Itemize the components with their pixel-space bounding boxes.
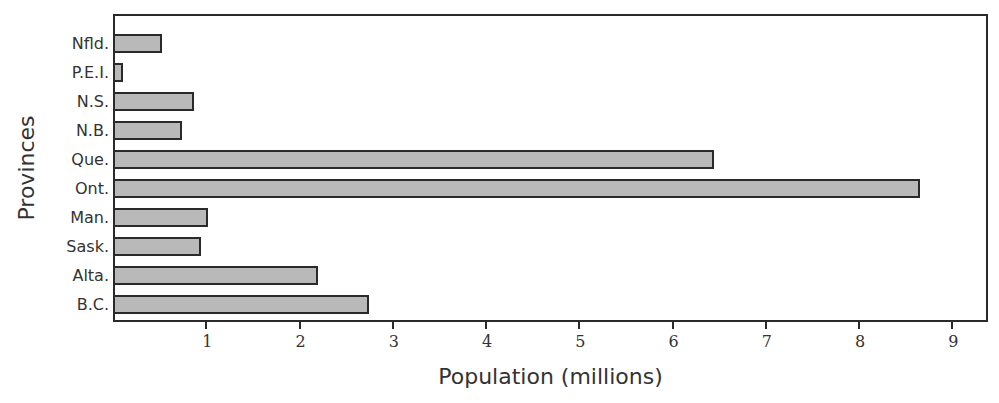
x-tick-label: 1 (192, 332, 222, 351)
x-tick (392, 322, 394, 329)
x-tick-label: 8 (845, 332, 875, 351)
x-tick-label: 3 (379, 332, 409, 351)
category-label: Que. (71, 150, 109, 169)
bar (113, 237, 201, 256)
category-label: N.S. (77, 92, 109, 111)
category-label: N.B. (76, 121, 109, 140)
category-label: Man. (70, 208, 109, 227)
x-tick (951, 322, 953, 329)
x-tick (485, 322, 487, 329)
category-label: Alta. (72, 266, 109, 285)
category-label: P.E.I. (72, 63, 109, 82)
bar (113, 63, 123, 82)
category-label: B.C. (77, 295, 109, 314)
population-bar-chart: Nfld.P.E.I.N.S.N.B.Que.Ont.Man.Sask.Alta… (0, 0, 999, 403)
x-tick-label: 7 (752, 332, 782, 351)
x-tick-label: 5 (565, 332, 595, 351)
bar (113, 295, 369, 314)
x-axis-label: Population (millions) (113, 364, 988, 389)
bar (113, 179, 920, 198)
x-tick (578, 322, 580, 329)
category-label: Sask. (66, 237, 109, 256)
x-tick-label: 9 (938, 332, 968, 351)
x-tick (299, 322, 301, 329)
bar (113, 266, 318, 285)
category-label: Nfld. (72, 34, 109, 53)
category-label: Ont. (75, 179, 109, 198)
bar (113, 208, 208, 227)
y-axis-label: Provinces (14, 115, 39, 220)
bar (113, 150, 714, 169)
x-tick (672, 322, 674, 329)
x-tick-label: 2 (286, 332, 316, 351)
bar (113, 121, 182, 140)
bar (113, 34, 162, 53)
x-tick-label: 6 (659, 332, 689, 351)
x-tick (765, 322, 767, 329)
bar (113, 92, 194, 111)
x-tick-label: 4 (472, 332, 502, 351)
x-tick (858, 322, 860, 329)
x-tick (205, 322, 207, 329)
